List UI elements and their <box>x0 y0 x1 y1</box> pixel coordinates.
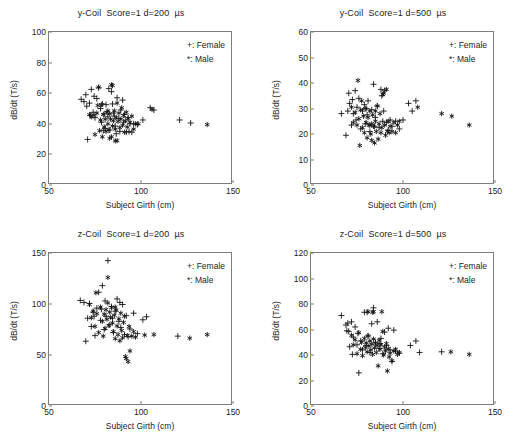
legend-entry-female: +: Female <box>449 38 487 52</box>
data-point-male <box>359 98 364 103</box>
data-point-male <box>142 333 147 338</box>
xtick-label-z-coil-200-0: 50 <box>44 407 53 417</box>
data-point-female <box>409 108 415 114</box>
data-point-male <box>125 333 130 338</box>
data-point-male <box>361 114 366 119</box>
data-point-female <box>109 101 115 107</box>
legend-entry-male: *: Male <box>187 52 225 66</box>
data-point-female <box>144 314 150 320</box>
legend-z-coil-500: +: Female*: Male <box>449 259 487 287</box>
data-point-male <box>357 330 362 335</box>
ytick-label-y-coil-500-4: 40 <box>299 78 308 88</box>
data-point-female <box>378 86 384 92</box>
xtick-label-y-coil-500-0: 50 <box>306 186 315 196</box>
ytick-label-z-coil-500-1: 20 <box>299 376 308 386</box>
data-point-female <box>140 117 146 123</box>
x-axis-label-z-coil-200: Subject Girth (cm) <box>48 421 232 431</box>
data-point-male <box>119 328 124 333</box>
xtick-label-z-coil-500-2: 150 <box>488 407 502 417</box>
data-point-female <box>120 97 126 103</box>
xtick-label-y-coil-500-2: 150 <box>488 186 502 196</box>
data-point-male <box>378 111 383 116</box>
data-point-male <box>467 122 472 127</box>
data-point-male <box>128 348 133 353</box>
data-point-female <box>103 102 109 108</box>
data-point-male <box>449 349 454 354</box>
data-point-male <box>101 112 106 117</box>
data-point-male <box>356 78 361 83</box>
data-point-female <box>349 97 355 103</box>
panel-y-coil-500: y-Coil Score=1 d=500 µs01020304050605010… <box>262 0 524 221</box>
data-point-female <box>349 351 355 357</box>
data-point-male <box>205 332 210 337</box>
data-point-male <box>117 316 122 321</box>
ytick-label-y-coil-500-5: 50 <box>299 53 308 63</box>
data-point-male <box>105 317 110 322</box>
data-point-male <box>357 116 362 121</box>
ytick-label-y-coil-200-5: 100 <box>32 27 46 37</box>
data-point-female <box>365 98 371 104</box>
data-point-male <box>113 336 118 341</box>
data-point-female <box>83 92 89 98</box>
panel-title-y-coil-500: y-Coil Score=1 d=500 µs <box>262 8 524 18</box>
ytick-label-y-coil-500-1: 10 <box>299 155 308 165</box>
data-point-female <box>346 90 352 96</box>
data-point-female <box>84 103 90 109</box>
data-point-female <box>385 325 391 331</box>
data-point-female <box>374 319 380 325</box>
x-axis-label-z-coil-500: Subject Girth (cm) <box>310 421 494 431</box>
data-point-male <box>152 332 157 337</box>
data-point-male <box>369 131 374 136</box>
data-point-female <box>88 323 94 329</box>
legend-entry-male: *: Male <box>449 52 487 66</box>
data-point-male <box>373 108 378 113</box>
data-point-male <box>118 338 123 343</box>
data-point-male <box>355 351 360 356</box>
data-point-male <box>93 132 98 137</box>
data-point-female <box>140 317 146 323</box>
data-point-female <box>338 111 344 117</box>
legend-entry-female: +: Female <box>187 259 225 273</box>
data-point-male <box>380 309 385 314</box>
data-point-male <box>364 340 369 345</box>
data-point-male <box>127 324 132 329</box>
data-point-male <box>119 105 124 110</box>
data-point-male <box>188 336 193 341</box>
ytick-label-z-coil-500-6: 120 <box>294 248 308 258</box>
data-point-male <box>360 353 365 358</box>
data-point-male <box>98 117 103 122</box>
data-point-male <box>358 143 363 148</box>
data-point-male <box>96 84 101 89</box>
data-point-female <box>354 342 360 348</box>
data-point-male <box>362 130 367 135</box>
data-point-male <box>366 115 371 120</box>
panel-title-y-coil-200: y-Coil Score=1 d=200 µs <box>0 8 262 18</box>
data-point-female <box>371 81 377 87</box>
xtick-label-z-coil-500-0: 50 <box>306 407 315 417</box>
data-point-male <box>205 122 210 127</box>
ytick-label-z-coil-500-3: 60 <box>299 325 308 335</box>
legend-entry-female: +: Female <box>187 38 225 52</box>
data-point-female <box>345 108 351 114</box>
data-point-male <box>379 130 384 135</box>
data-point-female <box>175 333 181 339</box>
data-point-female <box>406 100 412 106</box>
data-point-male <box>390 358 395 363</box>
figure-canvas: y-Coil Score=1 d=200 µs02040608010050100… <box>0 0 525 442</box>
data-point-male <box>374 129 379 134</box>
y-axis-label-z-coil-500: dB/dt (T/s) <box>271 291 281 351</box>
data-point-male <box>376 137 381 142</box>
legend-entry-male: *: Male <box>449 273 487 287</box>
data-point-male <box>106 275 111 280</box>
data-point-male <box>415 105 420 110</box>
xtick-label-z-coil-200-2: 150 <box>226 407 240 417</box>
data-point-male <box>87 302 92 307</box>
data-point-male <box>450 114 455 119</box>
ytick-label-z-coil-200-2: 100 <box>32 299 46 309</box>
data-point-female <box>347 344 353 350</box>
data-point-male <box>114 308 119 313</box>
data-point-female <box>348 319 354 325</box>
data-point-male <box>366 309 371 314</box>
data-point-female <box>114 296 120 302</box>
ytick-label-y-coil-200-1: 20 <box>37 149 46 159</box>
